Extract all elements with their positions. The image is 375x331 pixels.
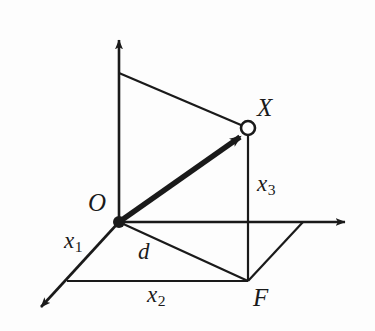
label-axis-x1: x1 — [64, 229, 83, 255]
label-foot-f: F — [253, 285, 268, 310]
label-axis-x2: x2 — [147, 283, 166, 309]
label-axis-x3-subscript: 3 — [268, 181, 276, 198]
coordinate-diagram — [0, 0, 375, 331]
label-axis-x1-subscript: 1 — [75, 238, 83, 255]
edge-f-to-base-right-corner — [248, 222, 303, 281]
label-axis-x2-subscript: 2 — [158, 292, 166, 309]
vector-o-to-x — [119, 137, 240, 222]
label-axis-x1-base: x — [64, 228, 74, 253]
origin-point-marker — [113, 216, 125, 228]
label-axis-x2-base: x — [147, 282, 157, 307]
label-axis-x3-base: x — [257, 171, 267, 196]
label-distance-d: d — [138, 240, 150, 263]
label-axis-x3: x3 — [257, 172, 276, 198]
figure-canvas: O X F x1 x2 x3 d — [0, 0, 375, 331]
label-point-x: X — [257, 95, 272, 120]
label-origin: O — [88, 190, 106, 215]
edge-vertical-axis-to-x — [119, 73, 248, 128]
point-x-marker — [241, 121, 255, 135]
